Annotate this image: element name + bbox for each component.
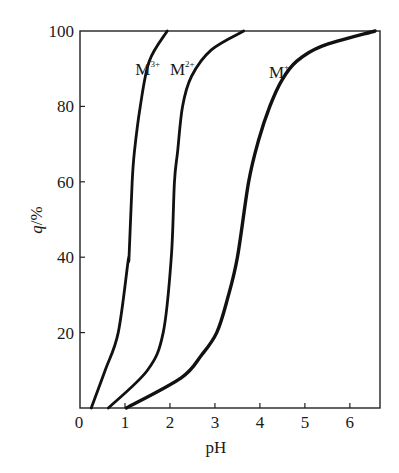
series-line-m3-plus [91, 31, 167, 408]
x-axis-title: pH [206, 438, 227, 457]
y-tick-label: 100 [49, 22, 75, 41]
series-lines [91, 31, 375, 408]
series-line-m-plus [126, 31, 375, 408]
chart: 0123456 20406080100 M3+M2+M+ pH q/% [0, 0, 399, 473]
x-tick-label: 3 [211, 413, 220, 432]
y-axis-title: q/% [27, 206, 46, 233]
x-tick-label: 0 [75, 413, 84, 432]
series-line-m2-plus [108, 31, 243, 408]
y-tick-label: 20 [57, 324, 74, 343]
y-tick-label: 80 [57, 97, 74, 116]
series-labels: M3+M2+M+ [135, 59, 289, 83]
x-tick-label: 4 [256, 413, 265, 432]
plot-border [80, 31, 380, 408]
y-tick-label: 60 [57, 173, 74, 192]
x-tick-label: 6 [346, 413, 355, 432]
series-label-m3-plus: M3+ [135, 59, 160, 79]
x-tick-label: 5 [301, 413, 310, 432]
x-tick-label: 2 [166, 413, 175, 432]
series-label-m-plus: M+ [269, 62, 289, 82]
x-tick-label: 1 [121, 413, 130, 432]
plot-frame [80, 31, 380, 408]
y-tick-label: 40 [57, 248, 74, 267]
y-axis-title-unit: /% [27, 206, 46, 225]
